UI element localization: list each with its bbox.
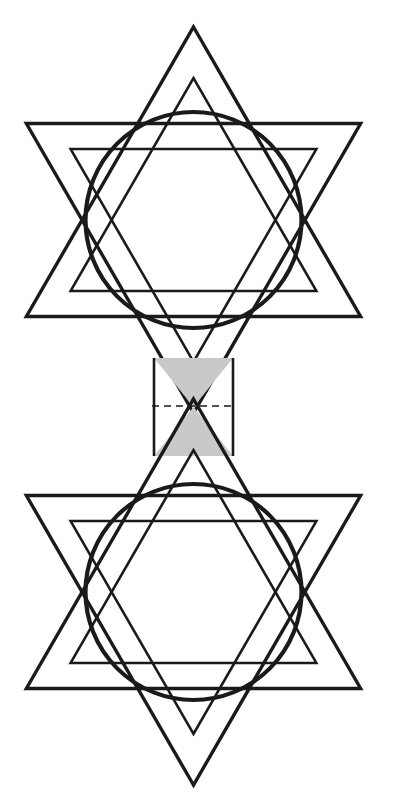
figure-canvas (0, 0, 399, 809)
geometric-figure (0, 0, 399, 809)
